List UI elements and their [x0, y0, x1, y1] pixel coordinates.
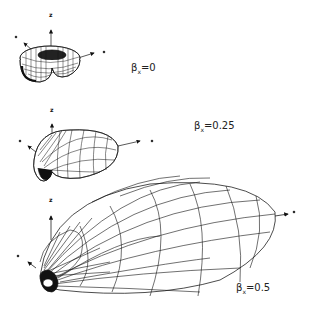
x-axis-arrow [118, 141, 140, 146]
radiation-pattern-figure [0, 0, 309, 315]
beta-value: =0.25 [204, 120, 235, 131]
beta-value: =0 [141, 62, 156, 73]
z-axis-label: z [49, 11, 53, 18]
x-axis-arrow [275, 214, 288, 216]
x-axis-arrow [78, 53, 94, 58]
y-axis-arrow [28, 262, 36, 268]
lobe-beta-0.25 [19, 124, 153, 181]
beta-label-0.25: βx=0.25 [194, 120, 235, 133]
lobe-beta-0.5 [17, 176, 295, 296]
beta-label-0: βx=0 [131, 62, 156, 75]
beta-label-0.5: βx=0.5 [236, 282, 270, 295]
y-axis-arrow [28, 146, 36, 152]
lobe-beta-0 [15, 30, 105, 82]
beta-value: =0.5 [246, 282, 270, 293]
z-axis-label: z [49, 196, 53, 203]
z-axis-label: z [50, 106, 54, 113]
